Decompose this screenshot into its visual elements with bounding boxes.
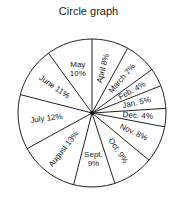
slice-label: May10%	[70, 60, 86, 78]
pie-chart: April 8%March 7%Feb. 4%Jan. 5%Dec. 4%Nov…	[0, 0, 177, 201]
center-dot	[90, 111, 94, 115]
